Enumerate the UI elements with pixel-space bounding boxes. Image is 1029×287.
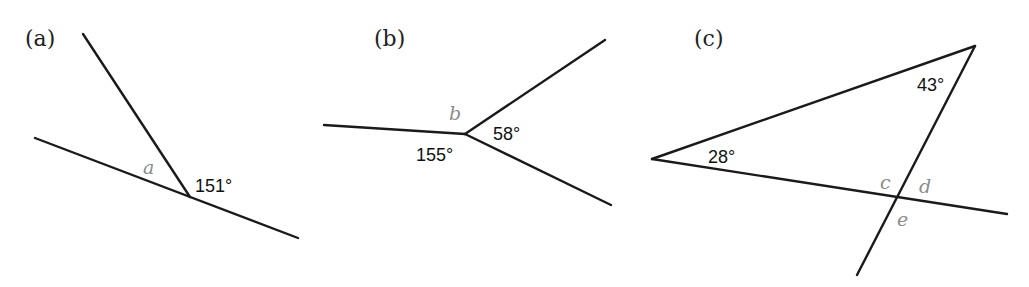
line-a-steep xyxy=(83,34,190,197)
unknown-angle-a: a xyxy=(143,156,154,178)
angle-28: 28° xyxy=(708,147,735,167)
unknown-angle-b: b xyxy=(449,102,461,124)
angle-155: 155° xyxy=(416,145,453,165)
panel-b-label: (b) xyxy=(374,26,405,51)
unknown-angle-c: c xyxy=(880,171,891,193)
angle-diagrams: (a) a 151° (b) b 155° 58° (c) 28° 43° c … xyxy=(0,0,1029,287)
panel-c: (c) 28° 43° c d e xyxy=(652,26,1007,275)
angle-43: 43° xyxy=(917,75,944,95)
unknown-angle-e: e xyxy=(897,208,908,230)
line-a-transversal xyxy=(35,138,298,238)
panel-a-label: (a) xyxy=(25,26,55,51)
line-b-left xyxy=(324,125,465,134)
panel-c-label: (c) xyxy=(694,26,724,51)
line-b-upper-right xyxy=(465,40,605,134)
panel-b: (b) b 155° 58° xyxy=(324,26,611,205)
unknown-angle-d: d xyxy=(919,175,931,197)
line-b-lower-right xyxy=(465,134,611,205)
angle-58: 58° xyxy=(493,124,520,144)
angle-151: 151° xyxy=(195,176,232,196)
line-c-base xyxy=(652,159,1007,214)
panel-a: (a) a 151° xyxy=(25,26,298,238)
